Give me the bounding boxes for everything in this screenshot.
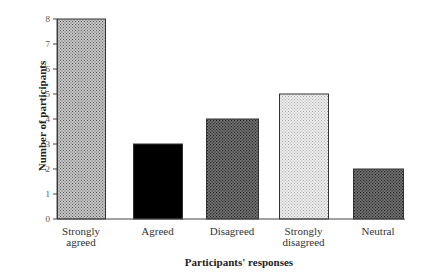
y-ticks-group	[53, 19, 57, 219]
bar-chart: 012345678 Number of participants Strongl…	[0, 0, 422, 279]
bar-agreed	[134, 144, 183, 219]
y-tick-label: 8	[38, 14, 50, 24]
y-axis-label: Number of participants	[36, 36, 48, 196]
x-axis-label: Participants' responses	[0, 256, 422, 268]
bar-strongly-disagreed	[280, 94, 329, 219]
bar-strongly-agreed	[58, 19, 106, 219]
bar-disagreed	[207, 119, 259, 219]
x-category-label: Neutral	[338, 226, 418, 237]
x-category-label: Stronglyagreed	[41, 226, 121, 248]
bar-neutral	[354, 169, 404, 219]
bars-group	[58, 19, 404, 219]
x-category-label: Disagreed	[192, 226, 272, 237]
y-tick-label: 0	[38, 214, 50, 224]
x-category-label: Stronglydisagreed	[264, 226, 344, 248]
x-category-label: Agreed	[118, 226, 198, 237]
